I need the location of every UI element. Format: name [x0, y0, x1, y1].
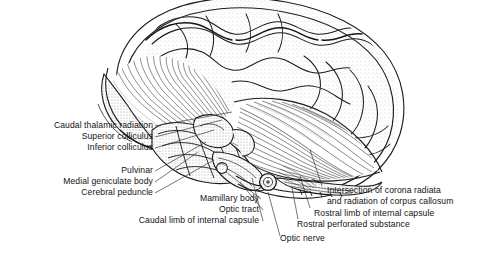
label-optic-tract: Optic tract	[219, 204, 259, 215]
label-medial-geniculate-body: Medial geniculate body	[63, 176, 153, 187]
label-and-radiation-of-corpus-callosum: and radiation of corpus callosum	[327, 196, 453, 207]
label-pulvinar: Pulvinar	[121, 165, 153, 176]
label-caudal-limb-of-internal-capsule: Caudal limb of internal capsule	[139, 215, 259, 226]
label-rostral-limb-of-internal-capsule: Rostral limb of internal capsule	[314, 208, 434, 219]
label-cerebral-peduncle: Cerebral peduncle	[81, 187, 153, 198]
label-caudal-thalamic-radiation: Caudal thalamic radiation	[54, 120, 153, 131]
label-inferior-colliculus: Inferior colliculus	[87, 142, 153, 153]
optic-nerve-stump	[260, 174, 277, 191]
label-intersection-of-corona-radiata: Intersection of corona radiata	[327, 185, 441, 196]
label-rostral-perforated-substance: Rostral perforated substance	[297, 219, 410, 230]
label-optic-nerve: Optic nerve	[280, 233, 325, 244]
label-mamillary-body: Mamillary body	[200, 193, 259, 204]
mamillary-body	[217, 163, 228, 174]
label-superior-colliculus: Superior colliculus	[82, 131, 153, 142]
